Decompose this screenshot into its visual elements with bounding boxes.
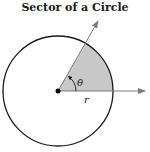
angle-label: θ: [77, 77, 83, 88]
radius-label: r: [84, 94, 90, 105]
sector-diagram: θ r: [0, 0, 150, 152]
center-point: [56, 89, 61, 94]
shaded-sector: [58, 43, 113, 91]
